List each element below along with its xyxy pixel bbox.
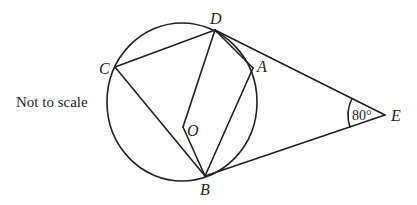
point-label-C: C bbox=[99, 60, 110, 77]
segment-DA bbox=[215, 30, 253, 68]
point-label-E: E bbox=[390, 107, 401, 124]
point-label-B: B bbox=[200, 181, 210, 198]
segment-DC bbox=[115, 30, 215, 67]
not-to-scale-note: Not to scale bbox=[16, 94, 88, 110]
segment-AB bbox=[205, 68, 253, 176]
segment-DO bbox=[183, 30, 215, 127]
circle bbox=[107, 23, 257, 181]
point-label-D: D bbox=[209, 10, 222, 27]
circle-geometry-diagram: 80° D C A O B E Not to scale bbox=[0, 0, 417, 205]
point-label-A: A bbox=[256, 58, 267, 75]
point-label-O: O bbox=[187, 122, 199, 139]
angle-label-E: 80° bbox=[352, 108, 372, 123]
tangent-BE bbox=[205, 115, 385, 176]
tangent-DE bbox=[215, 30, 385, 115]
